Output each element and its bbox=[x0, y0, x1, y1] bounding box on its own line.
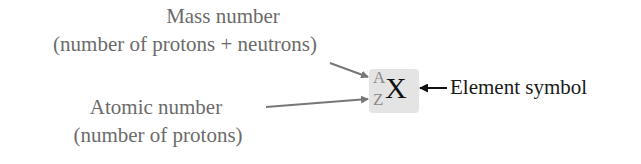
atomic-number-arrow bbox=[266, 99, 368, 107]
arrows bbox=[0, 0, 641, 164]
mass-number-arrow bbox=[330, 63, 368, 77]
